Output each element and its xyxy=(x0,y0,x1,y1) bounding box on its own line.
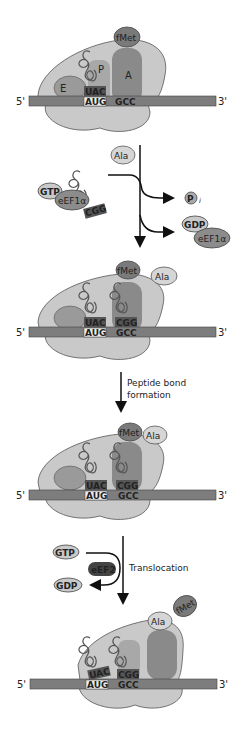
five-prime-label: 5' xyxy=(17,679,26,690)
p-site-label: P xyxy=(98,64,104,75)
e-site xyxy=(54,466,86,490)
translocation-step: GTP eEF2 GDP Translocation xyxy=(53,536,189,602)
a-site xyxy=(147,630,177,680)
anticodon-label: CGG xyxy=(116,318,137,328)
amino-acid-label: fMet xyxy=(117,266,137,276)
e-site-label: E xyxy=(60,83,66,94)
codon-label: GCC xyxy=(118,491,139,501)
translation-elongation-diagram: E P A fMet UAC AUG GCC 5' 3' Ala GTP eEF… xyxy=(0,0,248,755)
codon-label: AUG xyxy=(85,328,106,338)
anticodon-label: CGG xyxy=(84,203,107,218)
amino-acid-label: Ala xyxy=(151,617,165,627)
stage-after-delivery: fMet Ala UAC CGG AUG GCC 5' 3' xyxy=(16,261,227,359)
three-prime-label: 3' xyxy=(219,679,228,690)
five-prime-label: 5' xyxy=(16,327,25,338)
stage-after-peptide-bond: fMet Ala UAC CGG AUG GCC 5' 3' xyxy=(16,423,227,519)
eef1a-label: eEF1α xyxy=(198,234,226,244)
e-site xyxy=(54,306,86,330)
five-prime-label: 5' xyxy=(16,490,25,501)
stage-delivery: Ala GTP eEF1α CGG P i GDP eEF1α xyxy=(38,145,230,248)
anticodon-label: CGG xyxy=(117,481,138,491)
eef1a-label: eEF1α xyxy=(58,196,86,206)
anticodon-label: UAC xyxy=(85,87,106,97)
gdp-label: GDP xyxy=(184,220,206,230)
gdp-release-arrow xyxy=(140,215,172,232)
a-site-label: A xyxy=(125,70,132,81)
anticodon-label: UAC xyxy=(85,318,106,328)
codon-label: AUG xyxy=(87,680,108,690)
stage-after-translocation: Ala fMet UAC CGG AUG GCC 5' 3' xyxy=(17,591,228,708)
eef2-label: eEF2 xyxy=(91,565,116,575)
amino-acid-label: Ala xyxy=(155,272,169,282)
codon-label: GCC xyxy=(115,97,136,107)
codon-label: AUG xyxy=(85,97,106,107)
codon-label: GCC xyxy=(116,328,137,338)
amino-acid-label: fMet xyxy=(116,33,136,43)
gtp-label: GTP xyxy=(55,548,75,558)
pi-label: P xyxy=(187,194,194,204)
codon-label: AUG xyxy=(86,491,107,501)
pi-subscript: i xyxy=(199,197,201,205)
amino-acid-label: Ala xyxy=(146,431,160,441)
codon-label: GCC xyxy=(118,680,139,690)
stage-initial: E P A fMet UAC AUG GCC 5' 3' xyxy=(16,27,227,131)
step-label: Peptide bond xyxy=(127,378,186,388)
step-label: formation xyxy=(127,390,171,400)
amino-acid-label: Ala xyxy=(114,151,128,161)
three-prime-label: 3' xyxy=(218,490,227,501)
anticodon-label: UAC xyxy=(86,481,107,491)
five-prime-label: 5' xyxy=(16,96,25,107)
ribosome-small-subunit xyxy=(45,104,150,131)
anticodon-label: CGG xyxy=(118,670,139,680)
three-prime-label: 3' xyxy=(218,327,227,338)
three-prime-label: 3' xyxy=(218,96,227,107)
step-label: Translocation xyxy=(128,563,189,573)
gdp-label: GDP xyxy=(56,581,78,591)
amino-acid-label: fMet xyxy=(119,428,139,438)
